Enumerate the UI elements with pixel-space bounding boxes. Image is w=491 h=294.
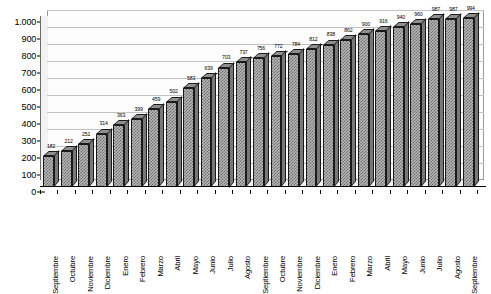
x-axis-tick-label: Diciembre xyxy=(104,256,112,289)
bar xyxy=(445,16,456,187)
bar-value-label: 363 xyxy=(112,113,130,118)
bar-body xyxy=(288,54,299,187)
x-axis-tick-mark xyxy=(267,190,268,194)
bar xyxy=(131,16,142,187)
x-axis-tick-label: Septiembre xyxy=(52,256,60,294)
bar-value-label: 583 xyxy=(182,76,200,81)
bar-body xyxy=(253,58,264,187)
bar-body xyxy=(375,31,386,187)
bar-value-label: 987 xyxy=(427,7,445,12)
bar-value-label: 838 xyxy=(322,32,340,37)
bar-value-label: 314 xyxy=(95,121,113,126)
x-axis-line xyxy=(40,186,486,187)
bar xyxy=(463,16,474,187)
bar-side-face xyxy=(89,138,94,187)
x-axis-tick-mark xyxy=(40,190,41,194)
bar-body xyxy=(218,68,229,188)
y-axis: 1.0009008007006005004003002001000 xyxy=(0,16,36,186)
bar-side-face xyxy=(299,48,304,187)
bar-body xyxy=(113,125,124,187)
bar-value-label: 459 xyxy=(147,97,165,102)
bar-value-label: 703 xyxy=(217,55,235,60)
x-axis-tick-label: Enero xyxy=(331,256,339,276)
bar-value-label: 960 xyxy=(409,12,427,17)
x-axis-tick-label: Marzo xyxy=(366,256,374,277)
y-axis-tick-label: 200 xyxy=(0,154,36,163)
bar-side-face xyxy=(369,28,374,187)
y-axis-tick-label: 600 xyxy=(0,86,36,95)
x-axis-tick-label: Enero xyxy=(122,256,130,276)
y-axis-tick-label: 700 xyxy=(0,69,36,78)
bar-side-face xyxy=(107,128,112,187)
bar-side-face xyxy=(474,12,479,187)
bar xyxy=(253,16,264,187)
x-axis-tick-label: Octubre xyxy=(279,256,287,282)
x-axis-tick-label: Noviembre xyxy=(87,256,95,292)
bar xyxy=(271,16,282,187)
x-axis-tick-mark xyxy=(407,190,408,194)
x-axis-tick-label: Abril xyxy=(174,256,182,271)
x-axis-tick-label: Agosto xyxy=(244,256,252,279)
plot-area: 1822122513143633994595025836397037377567… xyxy=(40,10,486,192)
bar xyxy=(393,16,404,187)
bar xyxy=(78,16,89,187)
x-axis-tick-label: Febrero xyxy=(349,256,357,282)
bar-side-face xyxy=(194,82,199,187)
bar-side-face xyxy=(421,18,426,187)
bar xyxy=(323,16,334,187)
bar-body xyxy=(306,49,317,187)
x-axis-tick-mark xyxy=(302,190,303,194)
bar-body xyxy=(78,144,89,187)
bar-body xyxy=(323,45,334,187)
bar-side-face xyxy=(246,56,251,187)
bar xyxy=(61,16,72,187)
bar-value-label: 772 xyxy=(270,44,288,49)
bar xyxy=(96,16,107,187)
x-axis-tick-mark xyxy=(75,190,76,194)
bar xyxy=(113,16,124,187)
x-axis-tick-mark xyxy=(197,190,198,194)
x-axis-tick-mark xyxy=(180,190,181,194)
x-axis-tick-mark xyxy=(110,190,111,194)
x-axis-tick-label: Mayo xyxy=(401,256,409,274)
bar xyxy=(340,16,351,187)
bar-body xyxy=(393,27,404,187)
bar-body xyxy=(61,151,72,187)
bar-side-face xyxy=(211,72,216,187)
bar-body xyxy=(236,62,247,187)
bar-side-face xyxy=(124,119,129,187)
bar-body xyxy=(410,24,421,187)
bar xyxy=(375,16,386,187)
x-axis-tick-mark xyxy=(460,190,461,194)
x-axis-tick-mark xyxy=(320,190,321,194)
x-axis-labels: SeptiembreOctubreNoviembreDiciembreEnero… xyxy=(40,190,486,259)
bar-side-face xyxy=(159,103,164,187)
x-axis-tick-label: Julio xyxy=(436,256,444,271)
bar-side-face xyxy=(281,50,286,187)
x-axis-tick-label: Septiembre xyxy=(471,256,479,294)
bar xyxy=(358,16,369,187)
bar-body xyxy=(340,40,351,187)
bar-body xyxy=(445,19,456,187)
bar-value-label: 399 xyxy=(130,107,148,112)
bar-body xyxy=(43,156,54,187)
x-axis-tick-mark xyxy=(127,190,128,194)
x-axis-tick-label: Septiembre xyxy=(262,256,270,294)
bar-side-face xyxy=(54,150,59,187)
bar-side-face xyxy=(177,96,182,187)
y-axis-tick-label: 100 xyxy=(0,171,36,180)
bar-body xyxy=(131,119,142,187)
bar-value-label: 639 xyxy=(200,66,218,71)
x-axis-tick-mark xyxy=(337,190,338,194)
bar xyxy=(201,16,212,187)
x-axis-tick-label: Marzo xyxy=(157,256,165,277)
bar-side-face xyxy=(229,62,234,187)
bar-side-face xyxy=(142,113,147,187)
bar-value-label: 862 xyxy=(339,28,357,33)
x-axis-tick-mark xyxy=(442,190,443,194)
x-axis-tick-mark xyxy=(477,190,478,194)
x-axis-tick-mark xyxy=(250,190,251,194)
x-axis-tick-mark xyxy=(355,190,356,194)
x-axis-tick-mark xyxy=(57,190,58,194)
